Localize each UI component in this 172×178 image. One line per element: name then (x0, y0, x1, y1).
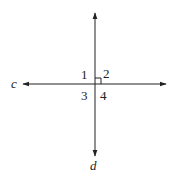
angle-3-label: 3 (81, 88, 88, 103)
angle-1-label: 1 (81, 67, 88, 82)
right-angle-marker (95, 78, 101, 84)
label-c: c (11, 76, 17, 91)
angle-2-label: 2 (103, 66, 110, 81)
angle-4-label: 4 (100, 88, 107, 103)
perpendicular-lines-diagram: c d 1 2 3 4 (0, 0, 172, 178)
label-d: d (90, 158, 97, 173)
